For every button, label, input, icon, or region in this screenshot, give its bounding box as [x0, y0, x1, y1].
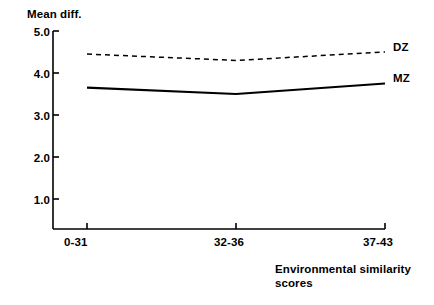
x-tick-label-37-43: 37-43	[363, 236, 393, 249]
x-axis-title: Environmental similarityscores	[275, 262, 425, 290]
x-tick-label-0-31: 0-31	[64, 236, 87, 249]
x-axis-title-line2: scores	[275, 277, 313, 289]
x-axis-title-line1: Environmental similarity	[275, 263, 411, 275]
plot-area	[0, 0, 434, 305]
series-line-dz	[87, 52, 385, 60]
line-chart-figure: Mean diff. 5.0 4.0 3.0 2.0 1.0 0-31 32-3…	[0, 0, 434, 305]
series-label-dz: DZ	[393, 41, 409, 54]
x-tick-label-32-36: 32-36	[214, 236, 244, 249]
series-line-mz	[87, 84, 385, 95]
series-label-mz: MZ	[393, 72, 410, 85]
